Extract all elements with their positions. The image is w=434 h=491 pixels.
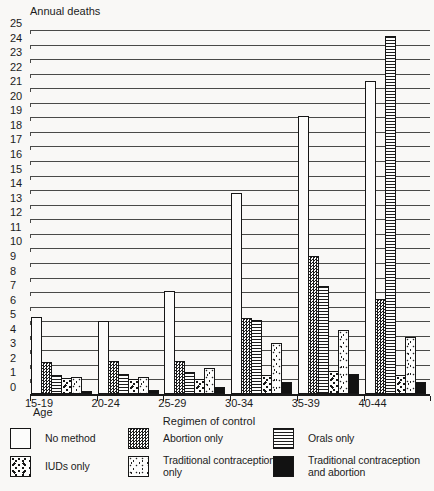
y-tick-label: 23 — [10, 46, 22, 58]
y-tick-label: 9 — [10, 250, 16, 262]
x-tick-label-40-44: 40-44 — [343, 397, 403, 409]
gridline — [30, 59, 430, 60]
fertility-control-mortality-chart: Annual deaths 01234567891011121314151617… — [0, 0, 434, 491]
y-tick-label: 22 — [10, 61, 22, 73]
legend-swatch-orals — [273, 428, 294, 449]
y-axis-tick — [30, 219, 31, 223]
bar-orals-40-44 — [385, 36, 396, 394]
y-tick-label: 11 — [10, 221, 21, 233]
y-axis-tick — [30, 45, 31, 49]
y-axis-tick — [30, 234, 31, 238]
y-tick-label: 19 — [10, 104, 22, 116]
legend-swatch-no-method — [10, 428, 31, 449]
legend-label-no-method: No method — [45, 427, 177, 450]
y-tick-label: 6 — [10, 294, 16, 306]
legend-swatch-trad — [128, 456, 149, 477]
y-axis-tick — [30, 248, 31, 252]
y-tick-label: 17 — [10, 133, 22, 145]
y-tick-label: 5 — [10, 308, 16, 320]
bar-trad-abortion-20-24 — [148, 390, 159, 394]
y-axis-tick — [30, 205, 31, 209]
y-tick-label: 12 — [10, 206, 22, 218]
x-tick-label-30-34: 30-34 — [209, 397, 269, 409]
y-tick-label: 25 — [10, 17, 22, 29]
y-tick-label: 8 — [10, 265, 16, 277]
y-tick-label: 2 — [10, 352, 16, 364]
legend-swatch-iuds — [10, 456, 31, 477]
y-tick-label: 7 — [10, 279, 16, 291]
y-tick-label: 4 — [10, 323, 16, 335]
bar-trad-abortion-40-44 — [415, 382, 426, 394]
y-axis-tick — [30, 292, 31, 296]
x-axis-title: Regimen of control — [99, 415, 319, 427]
gridline — [30, 45, 430, 46]
y-tick-label: 18 — [10, 119, 22, 131]
y-axis-tick — [30, 132, 31, 136]
bar-trad-abortion-30-34 — [281, 382, 292, 394]
y-axis-tick — [30, 278, 31, 282]
y-tick-label: 15 — [10, 163, 22, 175]
bar-trad-abortion-35-39 — [348, 374, 359, 394]
y-axis-tick — [30, 103, 31, 107]
legend-label-iuds: IUDs only — [45, 455, 177, 478]
bar-trad-abortion-15-19 — [81, 391, 92, 394]
y-axis-tick — [30, 161, 31, 165]
y-axis-tick — [30, 30, 31, 34]
x-tick-label-25-29: 25-29 — [142, 397, 202, 409]
gridline — [30, 30, 430, 31]
y-axis-tick — [30, 117, 31, 121]
x-tick-label-35-39: 35-39 — [276, 397, 336, 409]
y-tick-label: 21 — [10, 75, 22, 87]
y-tick-label: 0 — [10, 381, 16, 393]
x-tick-label-20-24: 20-24 — [76, 397, 136, 409]
y-tick-label: 1 — [10, 366, 16, 378]
y-axis-tick — [30, 74, 31, 78]
x-axis-age-label: Age — [33, 406, 53, 418]
y-tick-label: 14 — [10, 177, 22, 189]
y-axis-tick — [30, 146, 31, 150]
y-tick-label: 24 — [10, 32, 22, 44]
legend-swatch-abortion — [128, 428, 149, 449]
y-axis-tick — [30, 88, 31, 92]
y-tick-label: 10 — [10, 235, 22, 247]
y-tick-label: 20 — [10, 90, 22, 102]
y-axis-tick — [30, 59, 31, 63]
legend-swatch-trad-abortion — [273, 456, 294, 477]
x-axis-tick — [430, 396, 431, 401]
legend-label-orals: Orals only — [308, 427, 434, 450]
y-tick-label: 16 — [10, 148, 22, 160]
legend-label-trad-abortion: Traditional contraception and abortion — [308, 455, 434, 478]
bar-trad-abortion-25-29 — [214, 387, 225, 394]
y-tick-label: 13 — [10, 192, 22, 204]
gridline — [30, 74, 430, 75]
y-axis-title: Annual deaths — [30, 5, 100, 17]
y-axis-tick — [30, 263, 31, 267]
y-axis-tick — [30, 307, 31, 311]
y-axis-tick — [30, 176, 31, 180]
y-axis-tick — [30, 190, 31, 194]
y-tick-label: 3 — [10, 337, 16, 349]
